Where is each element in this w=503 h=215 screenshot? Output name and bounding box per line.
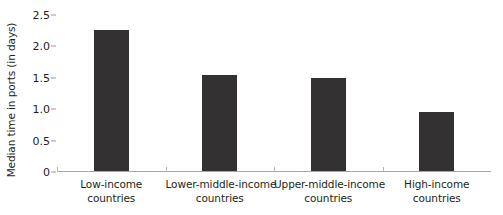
x-axis-label-line2: countries <box>166 191 275 205</box>
x-axis-label: Upper-middle-incomecountries <box>274 177 383 205</box>
x-axis-tick <box>383 167 384 172</box>
bar-chart: Median time in ports (in days) 00.51.01.… <box>0 0 503 215</box>
x-axis-label: Lower-middle-incomecountries <box>166 177 275 205</box>
bar <box>94 30 129 171</box>
x-axis-label-line2: countries <box>274 191 383 205</box>
bar <box>311 78 346 171</box>
x-axis-label-line1: Upper-middle-income <box>274 178 385 190</box>
y-tick-label: 2.0 <box>33 41 51 52</box>
bar <box>419 112 454 171</box>
x-axis-origin-tick <box>57 167 58 172</box>
y-axis-title: Median time in ports (in days) <box>3 10 19 190</box>
y-tick-mark <box>51 172 56 173</box>
x-axis-label-line1: Lower-middle-income <box>166 178 277 190</box>
x-axis-label-line2: countries <box>383 191 492 205</box>
x-axis-label-line1: Low-income <box>80 178 142 190</box>
x-axis-labels: Low-incomecountriesLower-middle-incomeco… <box>57 177 491 213</box>
y-tick-mark <box>51 140 56 141</box>
y-tick-label: 2.5 <box>33 10 51 21</box>
x-axis-tick <box>166 167 167 172</box>
y-tick-mark <box>51 15 56 16</box>
x-axis-label-line1: High-income <box>404 178 469 190</box>
x-axis-label: Low-incomecountries <box>57 177 166 205</box>
bar <box>202 75 237 171</box>
x-axis-label: High-incomecountries <box>383 177 492 205</box>
y-tick-label: 1.0 <box>33 104 51 115</box>
x-axis-label-line2: countries <box>57 191 166 205</box>
y-tick-mark <box>51 109 56 110</box>
y-tick-mark <box>51 46 56 47</box>
y-tick-label: 0.5 <box>33 135 51 146</box>
y-tick-label: 0 <box>43 167 50 178</box>
y-tick-label: 1.5 <box>33 72 51 83</box>
plot-area: 00.51.01.52.02.5 <box>57 14 491 172</box>
y-tick-mark <box>51 77 56 78</box>
x-axis-tick <box>274 167 275 172</box>
